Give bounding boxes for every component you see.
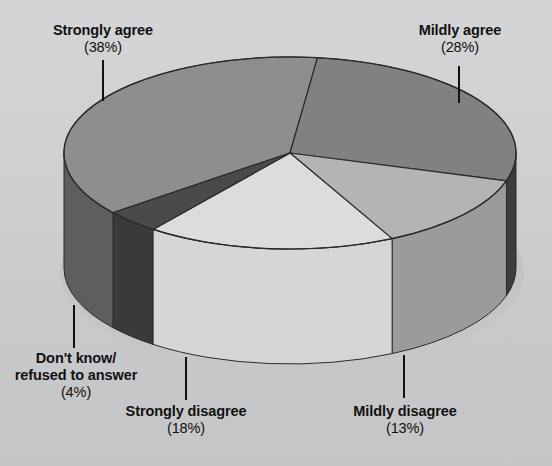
label-strongly-disagree-text: Strongly disagree [126, 403, 247, 419]
label-dont-know: Don't know/ refused to answer (4%) [0, 350, 156, 401]
label-mildly-agree-text: Mildly agree [419, 22, 502, 38]
label-strongly-agree: Strongly agree (38%) [23, 22, 183, 56]
label-dont-know-percent: (4%) [0, 384, 156, 401]
slice-side-dont-know [113, 213, 153, 345]
label-mildly-agree: Mildly agree (28%) [380, 22, 540, 56]
label-strongly-agree-text: Strongly agree [53, 22, 153, 38]
label-mildly-agree-percent: (28%) [380, 39, 540, 56]
label-dont-know-text-line1: Don't know/ [36, 350, 116, 366]
label-mildly-disagree: Mildly disagree (13%) [330, 403, 480, 437]
label-mildly-disagree-text: Mildly disagree [353, 403, 456, 419]
label-strongly-disagree: Strongly disagree (18%) [106, 403, 266, 437]
slice-side-strongly-disagree [153, 229, 392, 364]
pie-chart-figure: Strongly agree (38%) Mildly agree (28%) … [0, 0, 552, 466]
label-mildly-disagree-percent: (13%) [330, 420, 480, 437]
label-strongly-agree-percent: (38%) [23, 39, 183, 56]
label-strongly-disagree-percent: (18%) [106, 420, 266, 437]
label-dont-know-text-line2: refused to answer [0, 367, 156, 384]
